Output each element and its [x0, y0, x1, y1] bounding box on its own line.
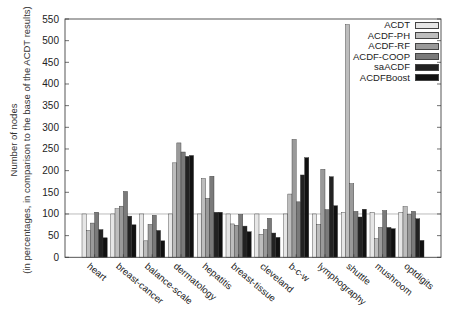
- legend-item: ACDFBoost: [353, 73, 439, 84]
- bar-ACDT: [399, 212, 403, 257]
- bar-ACDF-PH: [374, 239, 378, 258]
- bar-ACDFBoost: [305, 158, 309, 258]
- bar-ACDF-RF: [321, 169, 325, 257]
- bar-ACDF-COOP: [325, 210, 329, 258]
- legend-item: ACDF-RF: [353, 41, 439, 52]
- bar-saACDF: [329, 177, 333, 258]
- bar-ACDF-PH: [403, 207, 407, 258]
- bar-ACDFBoost: [103, 238, 107, 257]
- bar-saACDF: [185, 156, 189, 257]
- y-tick-label: 500: [42, 35, 59, 46]
- bar-ACDFBoost: [161, 241, 165, 257]
- bar-ACDF-RF: [292, 139, 296, 257]
- legend-label: ACDFBoost: [360, 73, 410, 84]
- bar-ACDF-RF: [350, 184, 354, 258]
- bar-ACDF-RF: [177, 143, 181, 257]
- bar-ACDFBoost: [420, 240, 424, 257]
- bar-group-balance-scale: [140, 214, 165, 257]
- legend-swatch: [415, 32, 439, 39]
- x-tick-label: b-c-w: [287, 260, 312, 283]
- y-tick-label: 550: [42, 14, 59, 25]
- bar-ACDF-COOP: [210, 176, 214, 257]
- bar-ACDF-RF: [234, 225, 238, 257]
- y-tick-label: 50: [48, 230, 60, 241]
- bar-saACDF: [358, 217, 362, 257]
- bar-chart: Number of nodes (in percentages, in comp…: [0, 0, 457, 314]
- bar-ACDFBoost: [132, 225, 136, 257]
- legend-swatch: [415, 64, 439, 71]
- bar-saACDF: [243, 226, 247, 257]
- bar-ACDFBoost: [218, 212, 222, 257]
- bar-ACDF-RF: [206, 198, 210, 257]
- bar-ACDF-PH: [345, 25, 349, 258]
- bar-ACDT: [341, 212, 345, 257]
- bar-ACDT: [111, 214, 115, 257]
- legend-swatch: [415, 43, 439, 50]
- bar-ACDF-COOP: [354, 211, 358, 257]
- bar-ACDT: [82, 214, 86, 257]
- bar-ACDF-COOP: [239, 214, 243, 257]
- bar-ACDFBoost: [333, 206, 337, 258]
- bar-saACDF: [300, 175, 304, 257]
- bar-ACDF-RF: [407, 214, 411, 257]
- x-tick-label: heart: [85, 260, 109, 283]
- bar-ACDT: [168, 214, 172, 257]
- bar-ACDF-PH: [317, 224, 321, 257]
- bar-saACDF: [214, 212, 218, 257]
- y-tick-label: 200: [42, 165, 59, 176]
- bar-group-breast-tissue: [226, 214, 251, 257]
- bar-ACDT: [197, 214, 201, 257]
- bar-ACDF-COOP: [411, 211, 415, 257]
- y-tick-label: 350: [42, 100, 59, 111]
- y-tick-label: 100: [42, 208, 59, 219]
- bar-ACDF-RF: [148, 224, 152, 257]
- legend-item: ACDT: [353, 20, 439, 31]
- legend-swatch: [415, 53, 439, 60]
- bar-group-mushroom: [370, 211, 395, 258]
- bar-ACDF-RF: [90, 223, 94, 257]
- bar-ACDFBoost: [189, 155, 193, 257]
- y-tick-label: 300: [42, 122, 59, 133]
- bar-ACDF-RF: [119, 206, 123, 257]
- bar-group-cleveland: [255, 214, 280, 257]
- bar-ACDFBoost: [391, 229, 395, 258]
- bar-ACDF-RF: [378, 227, 382, 257]
- bar-ACDF-COOP: [123, 191, 127, 257]
- y-tick-label: 150: [42, 187, 59, 198]
- legend-swatch: [415, 22, 439, 29]
- bar-group-heart: [82, 212, 107, 257]
- bar-ACDF-PH: [144, 241, 148, 257]
- legend-swatch: [415, 74, 439, 81]
- y-tick-label: 250: [42, 143, 59, 154]
- bar-ACDF-PH: [173, 163, 177, 257]
- bar-ACDF-PH: [230, 224, 234, 257]
- legend-label: ACDF-RF: [368, 41, 410, 52]
- bar-ACDT: [312, 214, 316, 257]
- bar-ACDF-PH: [288, 194, 292, 257]
- bar-group-hepatitis: [197, 176, 222, 257]
- bar-ACDF-COOP: [383, 211, 387, 258]
- bar-ACDF-PH: [86, 230, 90, 257]
- bar-saACDF: [387, 227, 391, 257]
- bar-ACDT: [255, 214, 259, 257]
- bar-ACDF-COOP: [296, 202, 300, 257]
- bar-ACDF-PH: [259, 234, 263, 257]
- legend-label: ACDT: [384, 20, 410, 31]
- bar-group-dermatology: [168, 143, 193, 257]
- bar-ACDF-COOP: [267, 218, 271, 257]
- bar-ACDFBoost: [362, 209, 366, 257]
- bar-ACDF-PH: [115, 209, 119, 258]
- bar-ACDT: [140, 214, 144, 257]
- bar-group-breast-cancer: [111, 191, 136, 257]
- bar-saACDF: [128, 216, 132, 257]
- y-tick-label: 0: [53, 252, 59, 263]
- bar-saACDF: [272, 233, 276, 257]
- bar-group-b-c-w: [284, 139, 309, 257]
- bar-ACDFBoost: [276, 237, 280, 257]
- bar-saACDF: [99, 230, 103, 258]
- y-tick-label: 450: [42, 57, 59, 68]
- bar-ACDF-COOP: [95, 212, 99, 257]
- bar-ACDF-COOP: [181, 152, 185, 257]
- y-tick-label: 400: [42, 78, 59, 89]
- bar-ACDT: [370, 212, 374, 257]
